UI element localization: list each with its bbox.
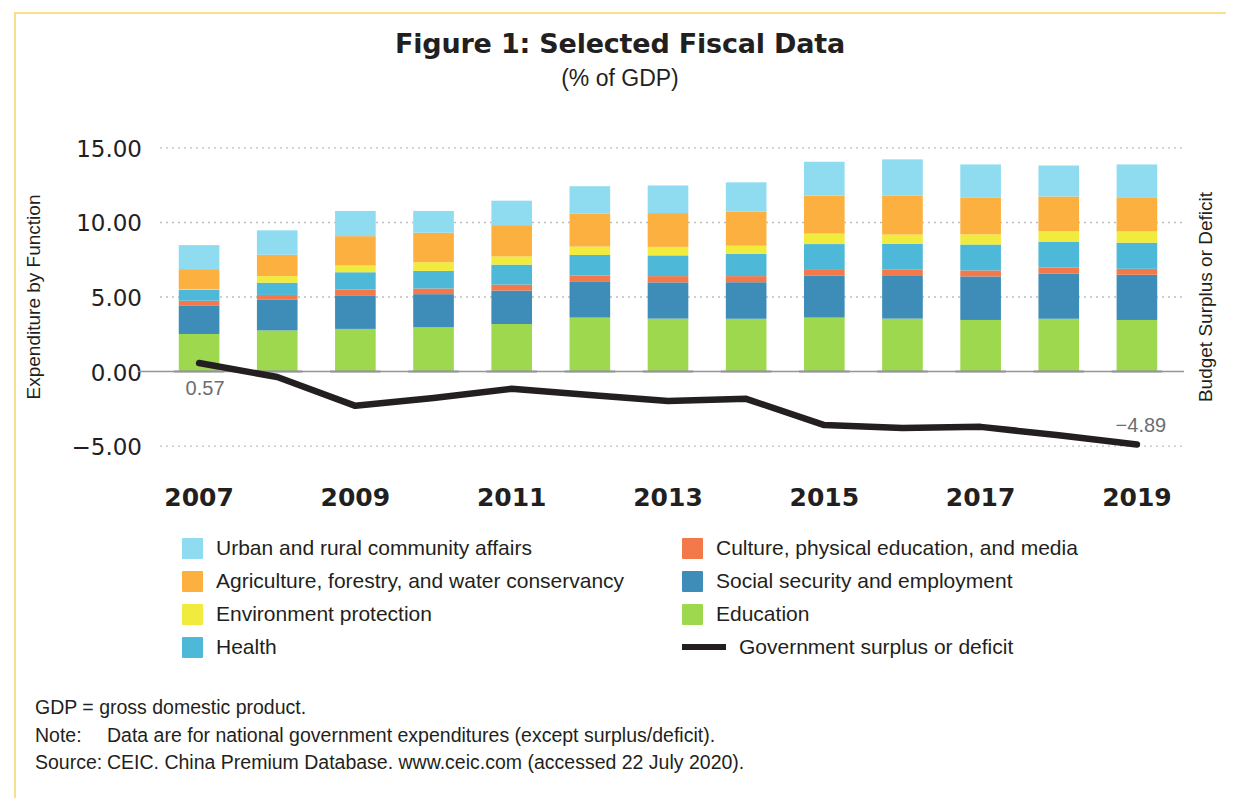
legend-item[interactable]: Culture, physical education, and media xyxy=(682,536,1122,560)
bar-segment[interactable] xyxy=(804,162,845,196)
bar-segment[interactable] xyxy=(960,320,1001,372)
bar-segment[interactable] xyxy=(491,225,532,256)
legend-item[interactable]: Agriculture, forestry, and water conserv… xyxy=(182,569,682,593)
bar-segment[interactable] xyxy=(648,247,689,255)
bar-segment[interactable] xyxy=(882,196,923,235)
bar-segment[interactable] xyxy=(726,276,767,282)
bar-segment[interactable] xyxy=(335,329,376,372)
bar-segment[interactable] xyxy=(491,291,532,324)
bar-segment[interactable] xyxy=(257,276,298,283)
bar-segment[interactable] xyxy=(882,235,923,244)
bar-segment[interactable] xyxy=(960,245,1001,271)
bar-segment[interactable] xyxy=(804,244,845,269)
bar-segment[interactable] xyxy=(804,269,845,276)
bar-segment[interactable] xyxy=(804,318,845,372)
bar-segment[interactable] xyxy=(1117,320,1158,372)
bar-segment[interactable] xyxy=(570,186,611,213)
bar-segment[interactable] xyxy=(1117,243,1158,269)
bar-segment[interactable] xyxy=(491,265,532,285)
bar-segment[interactable] xyxy=(1038,242,1079,268)
bar-segment[interactable] xyxy=(1117,231,1158,242)
bar-segment[interactable] xyxy=(413,262,454,271)
legend-item[interactable]: Health xyxy=(182,635,682,659)
bar-segment[interactable] xyxy=(648,185,689,213)
bar-segment[interactable] xyxy=(335,236,376,265)
bar-segment[interactable] xyxy=(726,319,767,372)
bar-segment[interactable] xyxy=(257,255,298,276)
bar-segment[interactable] xyxy=(257,300,298,331)
bar-segment[interactable] xyxy=(1117,164,1158,197)
note-line: Note: Data are for national government e… xyxy=(35,722,744,750)
bar-segment[interactable] xyxy=(804,276,845,318)
bar-segment[interactable] xyxy=(257,330,298,371)
bar-segment[interactable] xyxy=(570,276,611,282)
bar-segment[interactable] xyxy=(491,201,532,225)
bar-segment[interactable] xyxy=(257,283,298,295)
bar-segment[interactable] xyxy=(1117,269,1158,275)
bar-segment[interactable] xyxy=(960,198,1001,235)
bar-segment[interactable] xyxy=(413,211,454,233)
bar-segment[interactable] xyxy=(882,244,923,270)
bar-segment[interactable] xyxy=(648,282,689,318)
bar-segment[interactable] xyxy=(335,211,376,236)
bar-segment[interactable] xyxy=(491,285,532,291)
bar-segment[interactable] xyxy=(413,271,454,289)
bar-segment[interactable] xyxy=(960,276,1001,320)
bar-segment[interactable] xyxy=(726,282,767,319)
bar-segment[interactable] xyxy=(960,164,1001,197)
bar-segment[interactable] xyxy=(179,290,220,301)
bar-segment[interactable] xyxy=(413,294,454,327)
bar-segment[interactable] xyxy=(413,233,454,263)
bar-segment[interactable] xyxy=(960,234,1001,244)
bar-segment[interactable] xyxy=(726,212,767,246)
bar-segment[interactable] xyxy=(1038,197,1079,232)
bar-segment[interactable] xyxy=(882,319,923,372)
bar-segment[interactable] xyxy=(804,234,845,244)
legend-item[interactable]: Education xyxy=(682,602,1122,626)
bar-segment[interactable] xyxy=(726,246,767,254)
bar-segment[interactable] xyxy=(1038,231,1079,242)
bar-segment[interactable] xyxy=(570,255,611,276)
bar-segment[interactable] xyxy=(1038,268,1079,274)
bar-segment[interactable] xyxy=(804,196,845,234)
bar-segment[interactable] xyxy=(648,213,689,247)
bar-segment[interactable] xyxy=(882,159,923,195)
bar-segment[interactable] xyxy=(1117,197,1158,231)
bar-segment[interactable] xyxy=(1117,275,1158,320)
bar-segment[interactable] xyxy=(413,289,454,295)
legend-item[interactable]: Social security and employment xyxy=(682,569,1122,593)
bar-segment[interactable] xyxy=(335,290,376,296)
bar-segment[interactable] xyxy=(648,255,689,276)
bar-segment[interactable] xyxy=(179,269,220,289)
bar-segment[interactable] xyxy=(570,318,611,372)
bar-segment[interactable] xyxy=(491,324,532,372)
bar-segment[interactable] xyxy=(491,256,532,264)
bar-segment[interactable] xyxy=(726,254,767,276)
bar-segment[interactable] xyxy=(648,276,689,282)
bar-segment[interactable] xyxy=(179,289,220,290)
bar-segment[interactable] xyxy=(335,295,376,329)
legend-item[interactable]: Government surplus or deficit xyxy=(682,635,1122,659)
legend-item[interactable]: Environment protection xyxy=(182,602,682,626)
bar-segment[interactable] xyxy=(570,282,611,318)
bar-segment[interactable] xyxy=(413,327,454,371)
bar-segment[interactable] xyxy=(179,245,220,269)
bar-segment[interactable] xyxy=(570,214,611,247)
bar-segment[interactable] xyxy=(1038,273,1079,318)
bar-segment[interactable] xyxy=(1038,319,1079,372)
bar-segment[interactable] xyxy=(882,270,923,276)
bar-segment[interactable] xyxy=(726,182,767,211)
bar-segment[interactable] xyxy=(882,276,923,319)
bar-segment[interactable] xyxy=(570,247,611,255)
bar-segment[interactable] xyxy=(648,319,689,372)
bar-segment[interactable] xyxy=(960,270,1001,276)
bar-segment[interactable] xyxy=(257,295,298,300)
legend-item[interactable]: Urban and rural community affairs xyxy=(182,536,682,560)
bar-segment[interactable] xyxy=(179,301,220,306)
bar-segment[interactable] xyxy=(335,266,376,273)
bar-segment[interactable] xyxy=(257,230,298,254)
bar-segment[interactable] xyxy=(179,305,220,334)
deficit-line[interactable] xyxy=(199,363,1137,444)
bar-segment[interactable] xyxy=(1038,165,1079,196)
bar-segment[interactable] xyxy=(335,272,376,289)
